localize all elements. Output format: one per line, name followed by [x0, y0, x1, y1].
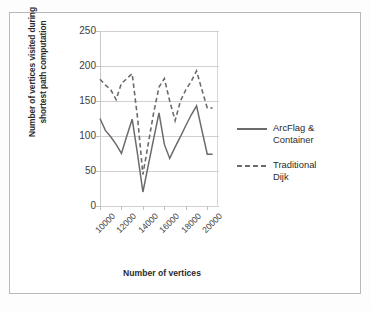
legend-entry-traditional-dijk: Traditional Dijk	[236, 159, 356, 182]
legend-label-line2: Dijk	[273, 171, 289, 182]
y-tick-label-200: 200	[62, 61, 96, 71]
x-axis-ticks: 10000 12000 14000 16000 18000 20000	[100, 206, 218, 256]
legend-label-arcflag-container: ArcFlag & Container	[273, 122, 314, 145]
y-tick-label-250: 250	[62, 26, 96, 36]
x-tick-mark-12000	[121, 206, 122, 210]
legend-entry-arcflag-container: ArcFlag & Container	[236, 122, 356, 145]
y-tick-label-0: 0	[62, 201, 96, 211]
chart-figure: Number of vertices visited during shorte…	[0, 0, 371, 311]
series-lines	[100, 31, 218, 206]
y-axis-ticks: 250 200 150 100 50 0	[58, 31, 96, 206]
legend-label-traditional-dijk: Traditional Dijk	[273, 159, 316, 182]
x-tick-mark-18000	[186, 206, 187, 210]
series-line-arcflag-container	[100, 106, 213, 192]
legend-solid-line-icon	[236, 122, 268, 136]
chart-legend: ArcFlag & Container Traditional Dijk	[236, 122, 356, 196]
y-axis-title-line1: Number of vertices visited during	[27, 7, 39, 137]
y-axis-title-line2: shortest path computation	[38, 20, 50, 123]
y-tick-label-150: 150	[62, 96, 96, 106]
x-tick-mark-10000	[100, 206, 101, 210]
legend-label-line2: Container	[273, 134, 314, 145]
legend-label-line1: Traditional	[273, 159, 316, 170]
y-tick-label-100: 100	[62, 131, 96, 141]
legend-dashed-line-icon	[236, 159, 268, 173]
legend-label-line1: ArcFlag &	[273, 122, 314, 133]
x-tick-mark-20000	[207, 206, 208, 210]
y-axis-title: Number of vertices visited during shorte…	[21, 0, 55, 172]
plot-area-wrapper	[100, 31, 218, 206]
x-tick-mark-16000	[164, 206, 165, 210]
y-tick-label-50: 50	[62, 166, 96, 176]
x-tick-mark-14000	[143, 206, 144, 210]
x-axis-title: Number of vertices	[72, 268, 252, 278]
